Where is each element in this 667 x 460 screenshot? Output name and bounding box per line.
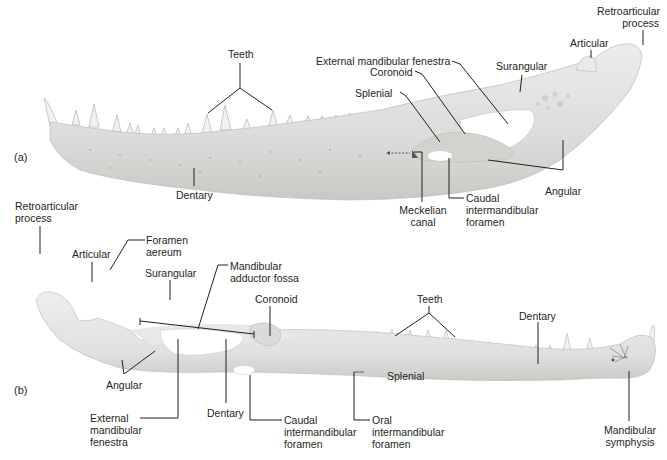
panel-b-tag: (b) [14,384,27,396]
label-a-angular: Angular [545,185,581,197]
label-a-articular: Articular [570,37,609,49]
label-b-mandibular-adductor-fossa: Mandibular adductor fossa [230,260,299,284]
label-a-dentary: Dentary [176,189,213,201]
label-a-splenial: Splenial [355,87,392,99]
label-b-surangular: Surangular [145,267,196,279]
label-b-coronoid: Coronoid [255,293,298,305]
label-b-external-mandibular-fenestra: External mandibular fenestra [90,412,142,448]
label-a-meckelian-canal: Meckelian canal [396,204,450,228]
label-b-articular: Articular [72,248,111,260]
panel-a-jaw [44,44,642,200]
panel-b-jaw [36,292,656,381]
label-b-caudal-intermandibular-foramen: Caudal intermandibular foramen [284,414,356,450]
label-b-foramen-aereum: Foramen aereum [146,234,188,258]
panel-a-tag: (a) [14,151,27,163]
label-b-oral-intermandibular-foramen: Oral intermandibular foramen [372,414,444,450]
label-a-retroarticular-process: Retroarticular process [597,5,659,29]
label-b-teeth: Teeth [417,293,443,305]
label-a-teeth: Teeth [228,48,254,60]
label-b-dentary-top: Dentary [519,310,556,322]
panel-b-leader-lines [40,226,629,421]
label-a-caudal-intermandibular-foramen: Caudal intermandibular foramen [466,192,538,228]
label-b-mandibular-symphysis: Mandibular symphysis [598,424,662,448]
label-b-retroarticular-process: Retroarticular process [15,200,78,224]
label-b-splenial: Splenial [387,370,424,382]
jaw-illustration [0,0,667,460]
label-a-coronoid: Coronoid [370,66,413,78]
label-a-surangular: Surangular [496,60,547,72]
label-b-dentary-bottom: Dentary [207,407,244,419]
label-b-angular: Angular [106,379,142,391]
